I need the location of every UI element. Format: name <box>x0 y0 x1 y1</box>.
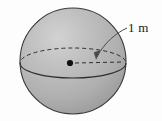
sphere-body <box>20 8 126 114</box>
sphere-diagram-svg <box>0 0 162 121</box>
center-dot <box>67 60 73 66</box>
radius-dimension-label: 1 m <box>128 21 149 35</box>
sphere-figure: 1 m <box>0 0 162 121</box>
